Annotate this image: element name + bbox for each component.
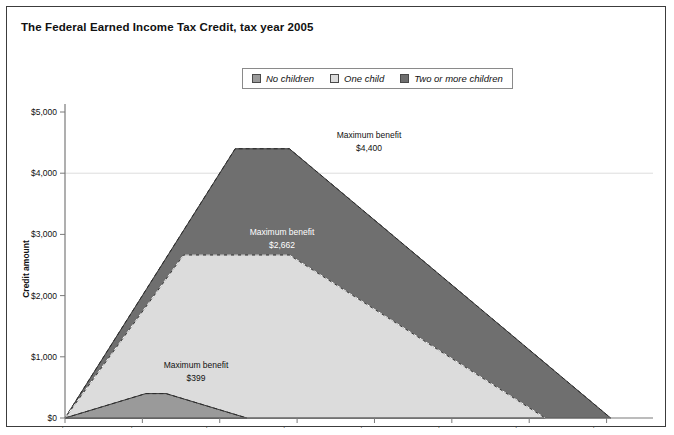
x-tick-label: $15,000 (282, 426, 313, 428)
y-tick-label: $3,000 (31, 229, 57, 239)
one-child-max-title: Maximum benefit (250, 227, 315, 237)
y-tick-label: $4,000 (31, 168, 57, 178)
y-tick-label: $2,000 (31, 291, 57, 301)
x-tick-label: $10,000 (204, 426, 235, 428)
chart-plot: $0$1,000$2,000$3,000$4,000$5,000$0$5,000… (7, 7, 667, 428)
y-tick-label: $0 (48, 413, 58, 423)
one-child-max-value: $2,662 (269, 240, 295, 250)
y-tick-label: $5,000 (31, 107, 57, 117)
no-children-max-value: $399 (187, 373, 206, 383)
x-tick-label: $25,000 (436, 426, 467, 428)
x-tick-label: $35,000 (591, 426, 622, 428)
x-tick-label: $20,000 (359, 426, 390, 428)
x-tick-label: $0 (60, 426, 70, 428)
x-tick-label: $30,000 (514, 426, 545, 428)
figure-panel: The Federal Earned Income Tax Credit, ta… (6, 6, 666, 427)
two-or-more-children-max-title: Maximum benefit (337, 130, 402, 140)
two-or-more-children-max-value: $4,400 (356, 143, 382, 153)
x-tick-label: $5,000 (129, 426, 155, 428)
no-children-max-title: Maximum benefit (164, 360, 229, 370)
y-tick-label: $1,000 (31, 352, 57, 362)
y-axis-title: Credit amount (21, 240, 31, 298)
